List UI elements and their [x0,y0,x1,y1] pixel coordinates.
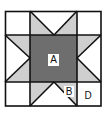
label-d: D [83,90,93,101]
label-a: A [48,54,59,66]
label-b: B [64,86,74,97]
